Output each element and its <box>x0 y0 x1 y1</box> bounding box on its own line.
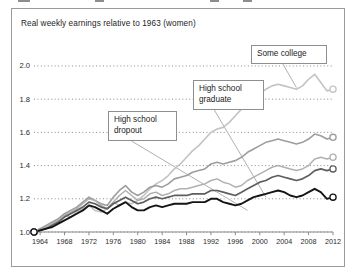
series-endpoint-marker <box>31 229 37 235</box>
data-series-group <box>34 74 333 232</box>
y-axis-label: 1.2 <box>8 194 30 203</box>
y-axis-label: 2.0 <box>8 61 30 70</box>
x-axis-label: 2012 <box>318 237 348 246</box>
y-axis-label: 1.6 <box>8 128 30 137</box>
series-endpoint-marker <box>330 194 336 200</box>
figure-root: Real weekly earnings relative to 1963 (w… <box>0 0 357 277</box>
series-endpoint-marker <box>330 154 336 160</box>
leader-line <box>214 110 266 197</box>
plot-area <box>34 56 333 232</box>
annotation-high-school-dropout[interactable]: High school dropout <box>108 111 177 141</box>
page-bleed-rule <box>0 0 357 2</box>
series-line <box>34 134 333 232</box>
annotation-high-school-graduate[interactable]: High school graduate <box>193 80 264 110</box>
series-line <box>34 169 333 232</box>
y-axis-label: 1.0 <box>8 228 30 237</box>
y-axis-label: 1.4 <box>8 161 30 170</box>
chart-title: Real weekly earnings relative to 1963 (w… <box>21 19 196 28</box>
y-axis-label: 1.8 <box>8 95 30 104</box>
chart-svg <box>34 56 333 232</box>
series-endpoint-marker <box>330 166 336 172</box>
series-endpoint-marker <box>330 86 336 92</box>
annotation-some-college[interactable]: Some college <box>251 45 327 64</box>
leader-line <box>283 64 296 88</box>
series-endpoint-marker <box>330 134 336 140</box>
